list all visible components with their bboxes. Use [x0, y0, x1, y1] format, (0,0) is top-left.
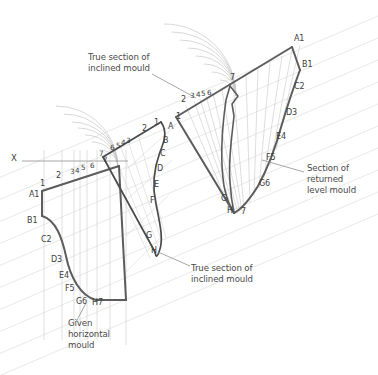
left-number-3: 3	[70, 168, 74, 176]
left-number-4: 4	[75, 167, 79, 175]
left-label-G6: G6	[76, 298, 87, 306]
technical-drawing-canvas: X True section of inclined mould Section…	[0, 0, 378, 375]
left-label-F5: F5	[65, 285, 75, 293]
right-number-2: 2	[181, 96, 186, 104]
note-section-returned-level-mould: Section of returned level mould	[307, 163, 356, 196]
mid-label-F: F	[150, 197, 155, 205]
mid-number-5: 5	[116, 142, 120, 150]
left-label-B1: B1	[27, 217, 37, 225]
mid-number-1: 1	[154, 119, 159, 127]
left-number-2: 2	[56, 172, 61, 180]
mid-label-B: B	[163, 137, 168, 145]
right-label-F5: F5	[266, 154, 276, 162]
left-label-D3: D3	[51, 256, 62, 264]
left-mould-outline	[42, 166, 126, 300]
right-label-E4: E4	[276, 133, 286, 141]
mid-label-A: A	[168, 123, 173, 131]
leader-lines	[76, 74, 304, 322]
left-number-7: 7	[103, 156, 107, 164]
mid-label-G: G	[146, 232, 152, 240]
left-number-5: 5	[81, 164, 85, 172]
mid-number-6: 6	[110, 144, 114, 152]
mid-label-C: C	[160, 150, 166, 158]
mid-number-3: 3	[126, 137, 130, 145]
right-label-B1: B1	[302, 61, 312, 69]
right-number-7-top: 7	[230, 74, 235, 82]
note-given-horizontal-mould: Given horizontal mould	[68, 318, 110, 351]
left-label-C2: C2	[41, 236, 51, 244]
mid-label-D: D	[157, 165, 163, 173]
right-number-7-bottom: 7	[241, 208, 246, 216]
right-label-D3: D3	[286, 109, 297, 117]
mid-number-4: 4	[121, 139, 125, 147]
left-label-H7: H7	[92, 299, 103, 307]
right-label-A1: A1	[294, 35, 304, 43]
leader-true-section-bottom	[158, 252, 190, 266]
right-label-C2: C2	[294, 83, 304, 91]
note-true-section-inclined-bottom: True section of inclined mould	[191, 263, 253, 285]
left-label-E4: E4	[59, 272, 69, 280]
right-number-3: 3	[190, 92, 194, 100]
mid-label-E: E	[154, 181, 159, 189]
right-label-H: H	[227, 207, 233, 215]
mid-number-7: 7	[99, 150, 103, 158]
right-mould-outline	[176, 47, 300, 213]
right-label-G: G	[221, 195, 227, 203]
mid-label-H: H	[151, 247, 157, 255]
left-number-1: 1	[40, 180, 45, 188]
mid-number-2: 2	[142, 125, 147, 133]
right-label-G6: G6	[259, 180, 270, 188]
left-number-6: 6	[90, 162, 94, 170]
left-label-A1: A1	[29, 191, 39, 199]
right-number-1: 1	[176, 113, 181, 121]
right-number-5: 5	[201, 90, 205, 98]
right-number-4: 4	[196, 91, 200, 99]
x-axis-label: X	[11, 154, 17, 163]
right-number-6: 6	[207, 89, 211, 97]
note-true-section-inclined-top: True section of inclined mould	[88, 52, 150, 74]
